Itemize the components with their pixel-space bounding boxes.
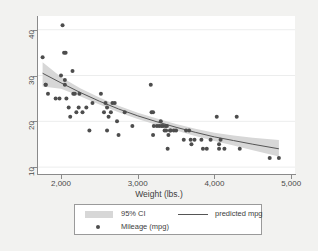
chart-figure: 10203040 2,0003,0004,0005,000 Weight (lb… (0, 0, 318, 251)
y-tick-label: 40 (28, 30, 36, 60)
legend-label-predicted: predicted mpg (215, 208, 263, 220)
x-axis-title: Weight (lbs.) (0, 189, 318, 199)
plot-canvas (38, 16, 295, 174)
plot-area (38, 16, 295, 174)
legend-row: 95% CI predicted mpg (75, 208, 261, 220)
fit-line-swatch (178, 214, 208, 215)
y-tick-label: 20 (28, 121, 36, 151)
y-axis-line (37, 16, 38, 175)
legend-label-ci: 95% CI (121, 208, 146, 220)
x-tick-label: 3,000 (118, 179, 158, 188)
legend-row: Mileage (mpg) (75, 221, 261, 233)
x-tick-label: 2,000 (41, 179, 81, 188)
x-axis-line (37, 174, 296, 175)
y-tick-label: 30 (28, 76, 36, 106)
x-tick-label: 5,000 (271, 179, 311, 188)
ci-band-swatch (85, 211, 113, 218)
x-tick-label: 4,000 (194, 179, 234, 188)
marker-swatch (96, 225, 100, 229)
legend-label-mileage: Mileage (mpg) (121, 221, 169, 233)
legend: 95% CI predicted mpg Mileage (mpg) (74, 204, 262, 235)
